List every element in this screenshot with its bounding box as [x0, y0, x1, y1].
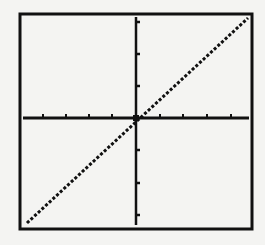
- origin-marker: [133, 115, 139, 121]
- background: [0, 0, 265, 245]
- graph-screen: [0, 0, 265, 245]
